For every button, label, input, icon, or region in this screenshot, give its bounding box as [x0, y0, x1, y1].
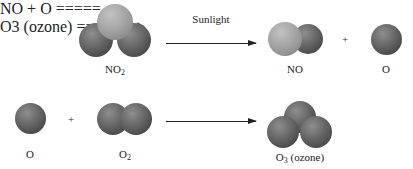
- no-label: NO: [287, 63, 303, 75]
- plus-sign-1: +: [342, 33, 348, 45]
- no2-label: NO2: [105, 63, 125, 77]
- o2-label: O2: [119, 148, 131, 162]
- o-label-reactant: O: [26, 148, 34, 160]
- reaction-arrow-2: [166, 121, 256, 122]
- oxygen-atom-right: [120, 103, 152, 135]
- nitrogen-atom: [268, 22, 302, 56]
- plus-sign-2: +: [68, 113, 74, 125]
- o-label-product: O: [382, 63, 390, 75]
- oxygen-atom-right: [300, 116, 332, 148]
- oxygen-atom-reactant: [15, 103, 46, 134]
- oxygen-atom-left: [267, 116, 299, 148]
- oxygen-atom-product: [371, 24, 402, 55]
- o3-label: O3 (ozone): [276, 151, 324, 165]
- nitrogen-atom: [97, 4, 133, 40]
- reaction-arrow-1: [166, 43, 256, 44]
- sunlight-label: Sunlight: [192, 13, 229, 25]
